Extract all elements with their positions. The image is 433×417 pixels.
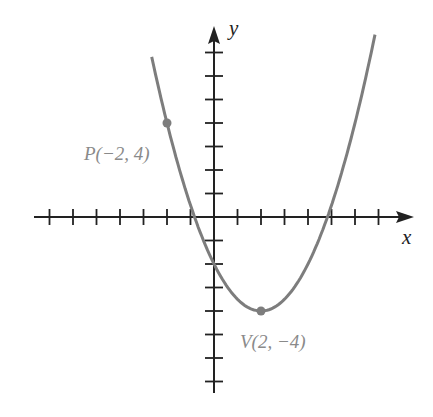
point-v-label: V(2, −4) bbox=[240, 331, 306, 353]
point-p-label: P(−2, 4) bbox=[84, 143, 150, 165]
plot-area bbox=[0, 0, 433, 417]
x-axis-label: x bbox=[402, 225, 411, 250]
parabola-curve bbox=[152, 35, 375, 311]
axes bbox=[34, 26, 414, 393]
point-p-marker bbox=[163, 119, 172, 128]
parabola-graph: x y P(−2, 4) V(2, −4) bbox=[0, 0, 433, 417]
point-v-marker bbox=[257, 307, 266, 316]
y-axis-label: y bbox=[229, 16, 238, 41]
